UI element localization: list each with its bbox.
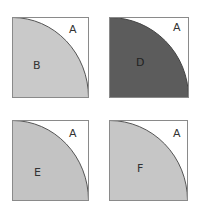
label-region: B (33, 60, 41, 71)
label-region: D (136, 57, 144, 68)
label-a: A (69, 128, 77, 139)
label-region: F (137, 163, 143, 174)
panel-b: A B (12, 17, 89, 98)
quarter-circle-b (12, 17, 89, 98)
label-region: E (34, 167, 41, 178)
label-a: A (69, 24, 77, 35)
label-a: A (173, 128, 181, 139)
quarter-circle-e (12, 120, 89, 201)
panel-e: A E (12, 120, 89, 201)
panel-f: A F (109, 120, 188, 201)
label-a: A (173, 22, 181, 33)
panel-d: A D (109, 17, 189, 98)
